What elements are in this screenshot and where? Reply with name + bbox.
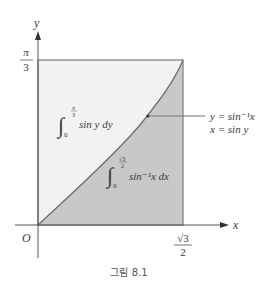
- figure-canvas: y x O π 3 √3 2 ∫ 0 π 3 sin y dy ∫ 0 √3 2…: [0, 0, 258, 288]
- curve-label-line1: y = sin⁻¹x: [209, 110, 255, 122]
- upper-integral-upper-den: 3: [72, 112, 75, 118]
- x-tick-numerator: √3: [177, 232, 189, 244]
- y-tick-numerator: π: [23, 46, 29, 58]
- upper-integral-lower-limit: 0: [64, 131, 68, 139]
- figure-caption: 그림 8.1: [110, 267, 147, 278]
- lower-integrand: sin⁻¹x dx: [129, 170, 169, 182]
- y-axis-arrow-icon: [35, 31, 41, 40]
- lower-integral-lower-limit: 0: [113, 182, 117, 190]
- y-axis-label: y: [33, 16, 40, 30]
- curve-label-line2: x = sin y: [209, 123, 248, 135]
- x-axis-label: x: [232, 218, 239, 232]
- upper-integrand: sin y dy: [79, 118, 113, 130]
- lower-integral-upper-den: 2: [121, 163, 124, 169]
- x-tick-denominator: 2: [180, 246, 186, 258]
- origin-label: O: [22, 231, 31, 245]
- y-tick-denominator: 3: [23, 61, 29, 73]
- x-axis-arrow-icon: [220, 222, 229, 228]
- lower-integral-upper-num: √3: [119, 156, 125, 162]
